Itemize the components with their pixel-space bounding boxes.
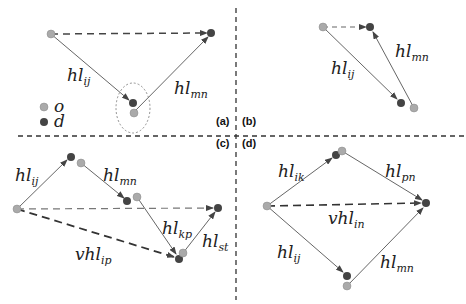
label-d-hl-pn: hlpn: [385, 163, 416, 183]
legend-origin-dot: [40, 103, 48, 111]
label-c-hl-st: hlst: [202, 233, 228, 253]
legend-destination-dot: [40, 118, 48, 126]
label-b-hl-ij: hlij: [331, 60, 354, 80]
panel-label-d: (d): [242, 138, 256, 149]
panel-label-b: (b): [242, 116, 256, 127]
label-c-vhl-ip: vhlip: [75, 246, 112, 266]
label-a-hl-mn: hlmn: [174, 80, 208, 100]
label-d-vhl-in: vhlin: [328, 210, 365, 230]
panel-label-c: (c): [216, 138, 229, 149]
label-c-hl-ij: hlij: [15, 167, 38, 187]
label-a-hl-ij: hlij: [67, 67, 90, 87]
label-d-hl-ik: hlik: [278, 163, 305, 183]
label-c-hl-mn: hlmn: [103, 167, 137, 187]
hitchhiking-diagram: o d (a) (b) (c) (d) hlij hlmn hlij hlmn …: [0, 0, 466, 304]
label-b-hl-mn: hlmn: [395, 43, 429, 63]
label-d-hl-mn: hlmn: [380, 254, 414, 274]
legend-destination-label: d: [54, 113, 65, 130]
panel-label-a: (a): [216, 116, 229, 127]
label-c-hl-kp: hlkp: [162, 220, 192, 240]
label-d-hl-ij: hlij: [277, 244, 300, 264]
